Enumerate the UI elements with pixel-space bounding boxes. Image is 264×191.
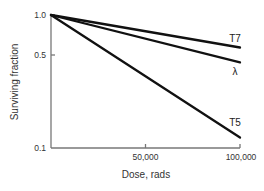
axes [51,15,240,148]
x-tick-label: 100,000 [226,152,257,162]
y-axis-label: Surviving fraction [9,44,20,121]
series-line-t7 [51,15,240,48]
x-axis-label: Dose, rads [122,169,170,180]
y-tick-label: 0.1 [34,143,46,153]
series-line-lambda [51,15,240,62]
series-line-t5 [51,15,240,138]
series-label-t7: T7 [229,33,241,44]
y-tick-label: 1.0 [34,10,46,20]
series-label-lambda: λ [233,66,238,77]
y-tick-label: 0.5 [34,50,46,60]
survival-curve-chart: 1.0 0.5 0.1 50,000 100,000 Dose, rads Su… [0,0,264,191]
series-label-t5: T5 [229,117,241,128]
x-tick-label: 50,000 [133,152,159,162]
